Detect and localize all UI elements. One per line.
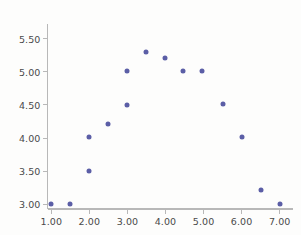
data-point <box>239 135 244 140</box>
y-tick-label: 3.50 <box>2 166 41 177</box>
y-tick-mark <box>43 71 48 72</box>
data-point <box>220 101 225 106</box>
x-tick-label: 4.00 <box>155 216 177 227</box>
x-tick-mark <box>279 209 280 214</box>
data-point <box>258 187 263 192</box>
x-tick-mark <box>241 209 242 214</box>
x-tick-label: 7.00 <box>269 216 291 227</box>
data-point <box>106 122 111 127</box>
scatter-plot-figure: 3.003.504.004.505.005.501.002.003.004.00… <box>0 0 301 235</box>
data-point <box>125 69 130 74</box>
y-tick-label: 5.50 <box>2 33 41 44</box>
data-point <box>277 202 282 207</box>
data-point <box>144 49 149 54</box>
x-tick-label: 2.00 <box>79 216 101 227</box>
y-axis-spine <box>47 24 49 209</box>
x-tick-mark <box>51 209 52 214</box>
x-tick-label: 5.00 <box>193 216 215 227</box>
data-point <box>199 69 204 74</box>
plot-area: 3.003.504.004.505.005.501.002.003.004.00… <box>0 0 301 235</box>
y-tick-label: 3.00 <box>2 199 41 210</box>
y-tick-label: 4.00 <box>2 133 41 144</box>
y-tick-mark <box>43 104 48 105</box>
y-tick-label: 5.00 <box>2 66 41 77</box>
data-point <box>180 69 185 74</box>
y-tick-mark <box>43 138 48 139</box>
x-tick-label: 1.00 <box>41 216 63 227</box>
x-axis-spine <box>48 208 294 210</box>
y-tick-mark <box>43 38 48 39</box>
y-tick-label: 4.50 <box>2 99 41 110</box>
data-point <box>163 56 168 61</box>
data-point <box>125 102 130 107</box>
x-tick-mark <box>127 209 128 214</box>
y-tick-mark <box>43 204 48 205</box>
data-point <box>87 169 92 174</box>
data-point <box>68 202 73 207</box>
data-point <box>87 135 92 140</box>
x-tick-label: 3.00 <box>117 216 139 227</box>
data-point <box>49 202 54 207</box>
x-tick-mark <box>203 209 204 214</box>
x-tick-mark <box>165 209 166 214</box>
x-tick-label: 6.00 <box>231 216 253 227</box>
y-tick-mark <box>43 171 48 172</box>
x-tick-mark <box>89 209 90 214</box>
